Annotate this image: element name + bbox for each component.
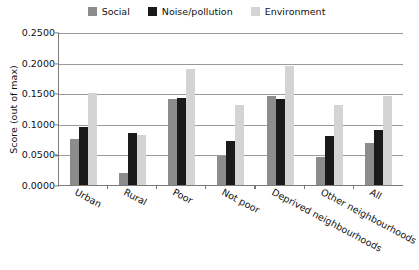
bar-group xyxy=(108,33,157,185)
x-axis-label: Rural xyxy=(122,187,148,207)
x-axis-label: Poor xyxy=(171,187,194,205)
y-axis-tick-mark xyxy=(55,185,59,186)
bar-group xyxy=(157,33,206,185)
x-axis-label: All xyxy=(369,187,384,201)
bar[interactable] xyxy=(267,96,276,185)
y-axis-tick: 0.0500 xyxy=(22,151,59,161)
y-axis-tick: 0.1500 xyxy=(22,89,59,99)
x-axis-label-slot: Poor xyxy=(157,188,206,268)
y-axis-tick-label: 0.0500 xyxy=(22,151,59,161)
chart-legend: SocialNoise/pollutionEnvironment xyxy=(0,7,413,17)
bar[interactable] xyxy=(325,136,334,185)
x-axis-label-slot: Deprived neighbourhoods xyxy=(255,188,304,268)
legend-item[interactable]: Environment xyxy=(251,7,326,17)
y-axis-title-text: Score (out of max) xyxy=(8,65,19,154)
bar[interactable] xyxy=(177,98,186,185)
legend-item[interactable]: Social xyxy=(88,7,130,17)
bar[interactable] xyxy=(226,141,235,185)
y-axis-tick: 0.1000 xyxy=(22,120,59,130)
legend-label: Noise/pollution xyxy=(162,7,233,17)
bar[interactable] xyxy=(137,135,146,185)
bar[interactable] xyxy=(128,133,137,185)
bar[interactable] xyxy=(383,96,392,185)
x-axis-label-slot: Not poor xyxy=(206,188,255,268)
y-axis-tick-label: 0.2000 xyxy=(22,59,59,69)
legend-label: Social xyxy=(102,7,130,17)
legend-label: Environment xyxy=(265,7,326,17)
x-axis-label-slot: Other neighbourhoods xyxy=(304,188,353,268)
bar[interactable] xyxy=(334,105,343,185)
y-axis-tick-label: 0.1000 xyxy=(22,120,59,130)
bar[interactable] xyxy=(168,99,177,185)
y-axis-tick: 0.2000 xyxy=(22,59,59,69)
y-axis-tick-label: 0.2500 xyxy=(22,28,59,38)
bar-group xyxy=(354,33,403,185)
bar[interactable] xyxy=(70,139,79,185)
bar[interactable] xyxy=(217,156,226,185)
legend-swatch-icon xyxy=(148,7,157,16)
bar[interactable] xyxy=(365,143,374,185)
bar[interactable] xyxy=(79,127,88,185)
bar-group xyxy=(256,33,305,185)
x-axis-label-slot: Rural xyxy=(107,188,156,268)
y-axis-tick: 0.2500 xyxy=(22,28,59,38)
bar[interactable] xyxy=(316,157,325,185)
legend-item[interactable]: Noise/pollution xyxy=(148,7,233,17)
x-axis-labels: UrbanRuralPoorNot poorDeprived neighbour… xyxy=(58,188,403,268)
bar-group xyxy=(206,33,255,185)
bar-group xyxy=(59,33,108,185)
bar[interactable] xyxy=(285,66,294,185)
y-axis-tick-label: 0.0000 xyxy=(22,181,59,191)
bar[interactable] xyxy=(186,69,195,185)
legend-swatch-icon xyxy=(251,7,260,16)
x-axis-label: Urban xyxy=(73,187,103,209)
bar[interactable] xyxy=(374,130,383,185)
y-axis-tick: 0.0000 xyxy=(22,181,59,191)
bar[interactable] xyxy=(235,105,244,185)
bar[interactable] xyxy=(276,99,285,185)
bar[interactable] xyxy=(88,93,97,185)
legend-swatch-icon xyxy=(88,7,97,16)
x-axis-label-slot: Urban xyxy=(58,188,107,268)
bar[interactable] xyxy=(119,173,128,185)
x-axis-label-slot: All xyxy=(354,188,403,268)
y-axis-title: Score (out of max) xyxy=(6,33,20,186)
y-axis-tick-label: 0.1500 xyxy=(22,89,59,99)
bar-groups xyxy=(59,33,403,185)
bar-group xyxy=(305,33,354,185)
plot-area: 0.25000.20000.15000.10000.05000.0000 xyxy=(58,33,403,186)
